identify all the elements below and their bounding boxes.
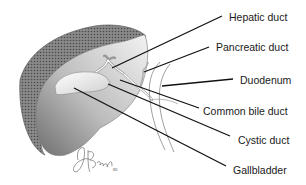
label-gallbladder: Gallbladder (233, 164, 287, 176)
artist-signature: MD (74, 148, 119, 172)
leader-pancreatic-duct (144, 47, 209, 72)
biliary-anatomy-illustration: MD (0, 0, 306, 185)
leader-duodenum (162, 79, 233, 86)
duodenum-shape (149, 62, 165, 150)
label-pancreatic-duct: Pancreatic duct (216, 41, 288, 53)
label-hepatic-duct: Hepatic duct (229, 11, 287, 23)
label-common-bile-duct: Common bile duct (203, 105, 288, 117)
svg-text:MD: MD (113, 168, 118, 172)
label-duodenum: Duodenum (240, 74, 291, 86)
label-cystic-duct: Cystic duct (238, 134, 289, 146)
